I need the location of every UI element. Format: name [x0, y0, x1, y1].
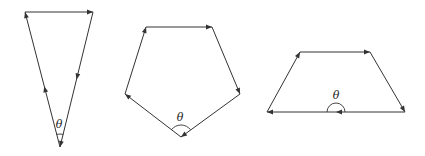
angle-arc — [171, 125, 190, 130]
arrowhead-icon — [295, 52, 300, 58]
arrowhead-icon — [336, 110, 342, 115]
triangle-figure: θ — [24, 10, 93, 147]
theta-label: θ — [333, 89, 340, 102]
theta-label: θ — [56, 118, 63, 131]
arrowhead-icon — [400, 106, 405, 112]
arrowhead-icon — [364, 50, 370, 55]
theta-label: θ — [177, 111, 184, 124]
trapezoid-figure: θ — [267, 50, 405, 115]
arrowhead-icon — [142, 27, 147, 33]
arrowhead-icon — [235, 88, 240, 94]
polygon-vector-diagram: θ θ θ — [0, 0, 425, 156]
arrowhead-icon — [181, 132, 187, 137]
arrowhead-icon — [206, 25, 212, 30]
arrowhead-icon — [125, 94, 131, 100]
pentagon-figure: θ — [125, 25, 240, 137]
angle-arc — [327, 103, 345, 112]
arrowhead-icon — [24, 12, 29, 18]
arrowhead-icon — [43, 86, 48, 92]
